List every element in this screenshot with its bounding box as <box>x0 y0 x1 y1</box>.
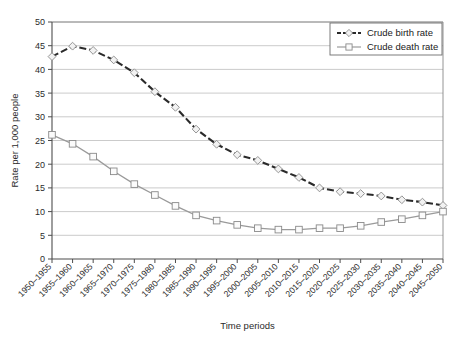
data-point-marker <box>378 219 385 226</box>
data-point-marker <box>440 208 447 215</box>
data-point-marker <box>398 196 406 204</box>
chart-legend: Crude birth rateCrude death rate <box>330 23 442 55</box>
legend-marker-square-icon <box>346 44 352 50</box>
legend-label: Crude birth rate <box>367 27 433 38</box>
data-point-marker <box>357 223 364 230</box>
y-tick-label: 5 <box>40 231 45 241</box>
y-tick-label: 40 <box>35 65 45 75</box>
data-point-marker <box>296 226 303 233</box>
y-tick-label: 25 <box>35 136 45 146</box>
data-point-marker <box>419 212 426 219</box>
y-tick-label: 45 <box>35 41 45 51</box>
y-tick-label: 50 <box>35 17 45 27</box>
data-point-marker <box>110 168 117 175</box>
data-point-marker <box>316 184 324 192</box>
data-point-marker <box>172 203 179 210</box>
y-tick-label: 30 <box>35 112 45 122</box>
data-point-marker <box>254 157 262 165</box>
data-point-marker <box>399 216 406 223</box>
data-point-marker <box>357 190 365 198</box>
data-point-marker <box>316 225 323 232</box>
data-point-marker <box>48 53 56 61</box>
data-point-marker <box>69 141 76 148</box>
y-tick-label: 35 <box>35 89 45 99</box>
y-axis-ticks-group: 05101520253035404550 <box>35 17 52 264</box>
data-point-marker <box>152 192 159 199</box>
data-point-marker <box>275 226 282 233</box>
data-point-marker <box>90 153 97 160</box>
data-point-marker <box>131 181 138 188</box>
data-point-marker <box>254 225 261 232</box>
series-layer <box>48 42 447 233</box>
data-point-marker <box>233 151 241 159</box>
data-point-marker <box>49 132 56 139</box>
data-point-marker <box>234 222 241 229</box>
y-axis-title: Rate per 1,000 people <box>9 93 20 187</box>
data-point-marker <box>337 225 344 232</box>
y-tick-label: 15 <box>35 183 45 193</box>
line-chart: 05101520253035404550 1950–19551955–19601… <box>0 0 460 343</box>
data-point-marker <box>295 174 303 182</box>
data-point-marker <box>193 212 200 219</box>
series-death-rate <box>49 132 447 233</box>
data-point-marker <box>69 42 77 50</box>
data-point-marker <box>377 192 385 200</box>
data-point-marker <box>419 198 427 206</box>
x-axis-ticks-group <box>52 259 443 263</box>
x-axis-labels-group: 1950–19551955–19601960–19651965–19701970… <box>16 261 445 299</box>
data-point-marker <box>213 217 220 224</box>
data-point-marker <box>274 165 282 173</box>
data-point-marker <box>336 188 344 196</box>
legend-label: Crude death rate <box>367 41 438 52</box>
data-point-marker <box>89 47 97 55</box>
x-axis-title: Time periods <box>220 320 275 331</box>
series-birth-rate <box>48 42 447 209</box>
y-tick-label: 20 <box>35 160 45 170</box>
y-tick-label: 10 <box>35 207 45 217</box>
chart-figure: 05101520253035404550 1950–19551955–19601… <box>0 0 460 343</box>
